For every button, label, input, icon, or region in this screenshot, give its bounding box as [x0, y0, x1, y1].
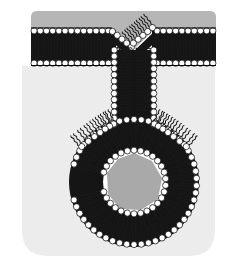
lipid-head-group — [171, 227, 177, 233]
lipid-head-group — [151, 97, 157, 103]
lipid-head-group — [111, 47, 117, 53]
lipid-head-group — [210, 28, 216, 34]
lipid-head-group — [71, 197, 77, 203]
lipid-head-group — [170, 134, 176, 140]
lipid-head-group — [191, 197, 197, 203]
lipid-head-group — [103, 195, 109, 201]
lipid-head-group — [101, 189, 107, 195]
lipid-head-group — [111, 53, 117, 59]
lipid-head-group — [87, 28, 93, 34]
lipid-head-group — [81, 28, 87, 34]
lipid-head-group — [91, 227, 97, 233]
lipid-head-group — [50, 28, 56, 34]
lipid-head-group — [197, 28, 203, 34]
lipid-head-group — [179, 28, 185, 34]
lipid-head-group — [145, 240, 151, 246]
lipid-head-group — [151, 84, 157, 90]
lipid-head-group — [138, 241, 144, 247]
lipid-head-group — [188, 204, 194, 210]
lipid-head-group — [107, 158, 113, 164]
lipid-head-group — [131, 211, 137, 217]
lipid-head-group — [99, 28, 105, 34]
lipid-head-group — [131, 116, 137, 122]
lipid-head-group — [166, 28, 172, 34]
lipid-head-group — [145, 118, 151, 124]
lipid-head-group — [118, 150, 124, 156]
lipid-head-group — [193, 168, 199, 174]
lipid-head-group — [161, 169, 167, 175]
lipid-head-group — [158, 163, 164, 169]
lipid-head-group — [124, 241, 130, 247]
lipid-head-group — [111, 97, 117, 103]
lipid-head-group — [177, 138, 183, 144]
lipid-head-group — [124, 117, 130, 123]
lipid-head-group — [155, 158, 161, 164]
lipid-head-group — [37, 28, 43, 34]
lipid-head-group — [111, 90, 117, 96]
lipid-head-group — [112, 153, 118, 159]
figure-canvas — [0, 0, 234, 271]
lipid-head-group — [191, 161, 197, 167]
extracellular-space-region — [31, 11, 216, 28]
lipid-head-group — [183, 143, 189, 149]
lipid-head-group — [144, 208, 150, 214]
lipid-head-group — [193, 175, 199, 181]
lipid-head-group — [151, 72, 157, 78]
lipid-head-group — [138, 210, 144, 216]
lipid-head-group — [165, 129, 171, 135]
lipid-head-group — [161, 189, 167, 195]
lipid-head-group — [150, 205, 156, 211]
lipid-head-group — [73, 204, 79, 210]
lipid-head-group — [155, 200, 161, 206]
lipid-head-group — [111, 66, 117, 72]
lipid-head-group — [111, 59, 117, 65]
lipid-head-group — [111, 72, 117, 78]
lipid-head-group — [74, 28, 80, 34]
lipid-head-group — [101, 169, 107, 175]
lipid-head-group — [159, 235, 165, 241]
lipid-head-group — [193, 183, 199, 189]
lipid-head-group — [116, 240, 122, 246]
lipid-head-group — [193, 190, 199, 196]
lipid-head-group — [185, 28, 191, 34]
lipid-head-group — [81, 216, 87, 222]
lipid-head-group — [131, 147, 137, 153]
lipid-head-group — [181, 216, 187, 222]
lipid-head-group — [151, 103, 157, 109]
lipid-head-group — [204, 28, 210, 34]
lipid-head-group — [138, 148, 144, 154]
lipid-head-group — [77, 210, 83, 216]
lipid-head-group — [73, 154, 79, 160]
lipid-head-group — [144, 150, 150, 156]
lipid-head-group — [165, 231, 171, 237]
lipid-head-group — [91, 134, 97, 140]
lipid-head-group — [151, 109, 157, 115]
lipid-head-group — [71, 161, 77, 167]
lipid-head-group — [112, 205, 118, 211]
lipid-head-group — [56, 28, 62, 34]
lipid-head-group — [62, 28, 68, 34]
lipid-head-group — [176, 222, 182, 228]
lipid-head-group — [97, 129, 103, 135]
lipid-head-group — [109, 238, 115, 244]
lipid-head-group — [68, 28, 74, 34]
lipid-head-group — [111, 103, 117, 109]
lipid-head-group — [31, 28, 37, 34]
lipid-head-group — [85, 138, 91, 144]
lipid-head-group — [43, 28, 49, 34]
lipid-head-group — [111, 84, 117, 90]
lipid-head-group — [151, 53, 157, 59]
lipid-head-group — [124, 148, 130, 154]
lipid-head-group — [107, 200, 113, 206]
lipid-head-group — [160, 28, 166, 34]
lipid-head-group — [158, 195, 164, 201]
lipid-head-group — [151, 47, 157, 53]
lipid-head-group — [93, 28, 99, 34]
lipid-head-group — [191, 28, 197, 34]
lipid-head-group — [103, 163, 109, 169]
lipid-head-group — [151, 66, 157, 72]
membrane-invagination-diagram — [0, 0, 234, 271]
lipid-head-group — [151, 59, 157, 65]
lipid-head-group — [138, 117, 144, 123]
lipid-head-group — [131, 241, 137, 247]
